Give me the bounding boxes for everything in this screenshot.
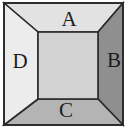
face-d-label: D [12,49,27,73]
face-b-label: B [107,48,121,72]
face-a-label: A [61,7,77,31]
face-c-label: C [59,98,73,122]
perspective-box-diagram: A B C D [0,0,126,132]
center-back-panel [38,32,98,99]
perspective-box-figure: A B C D [0,0,126,132]
